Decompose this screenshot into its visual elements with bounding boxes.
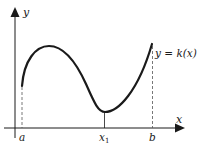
curve-k: [22, 44, 152, 112]
x-axis-label: x: [176, 113, 183, 126]
tick-label-x1: x1: [99, 131, 109, 145]
y-axis-arrow-icon: [11, 7, 20, 17]
y-axis-label: y: [22, 6, 30, 19]
tick-label-b: b: [149, 131, 156, 143]
tick-label-a: a: [19, 131, 25, 143]
function-graph: y x y = k(x) a x1 b: [0, 0, 197, 147]
curve-label: y = k(x): [154, 47, 197, 59]
